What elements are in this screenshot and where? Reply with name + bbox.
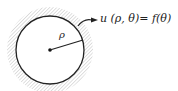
boundary-condition-label: u (ρ, θ)= f(θ) (100, 12, 171, 25)
radius-label: ρ (59, 29, 65, 40)
